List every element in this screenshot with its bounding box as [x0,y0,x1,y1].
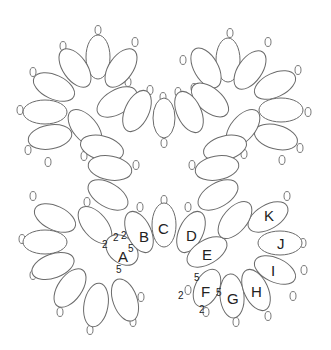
ring-label: I [271,262,275,279]
stitch-count: 5 [194,272,200,283]
ring-label: H [251,283,262,300]
stitch-count: 2 [113,232,119,243]
picot-icon [137,203,143,212]
picot-icon [185,203,191,212]
picot-icon [227,29,233,38]
picot-icon [265,312,271,321]
picot-icon [45,158,51,167]
picot-icon [233,318,239,327]
stitch-count: 5 [216,287,222,298]
picot-icon [279,156,285,165]
ring [80,281,111,328]
picot-icon [17,106,23,115]
stitch-count: 2 [121,230,127,241]
picot-icon [84,198,90,207]
stitch-count: 5 [116,264,122,275]
picot-icon [295,66,301,75]
picot-icon [30,192,36,201]
picot-icon [133,161,139,170]
ring [26,121,73,152]
ring [259,98,303,122]
picot-icon [95,26,101,35]
picot-icon [132,38,138,47]
picot-icon [30,68,36,77]
ring [23,100,67,124]
ring-label: A [118,248,128,265]
picot-icon [180,56,186,65]
picot-icon [25,146,31,155]
ring-label: G [227,290,239,307]
picot-icon [305,108,311,117]
picot-icon [284,192,290,201]
ring [153,98,175,138]
ring-label: B [139,228,149,245]
stitch-count: 5 [128,243,134,254]
picot-icon [57,308,63,317]
ring-label: K [264,207,274,224]
stitch-count: 2 [102,239,108,250]
picot-icon [185,286,191,295]
stitch-count: 2 [178,290,184,301]
picot-icon [301,266,307,275]
tatting-diagram: ABCDEFGHIJK 222555225 [0,0,331,350]
picot-icon [189,161,195,170]
picot-icon [161,139,167,148]
ring-label: D [186,227,197,244]
ring-label: E [202,246,212,263]
picot-icon [297,144,303,153]
picot-icon [290,292,296,301]
ring [23,230,67,254]
picot-icon [265,38,271,47]
ring-label: C [158,220,169,237]
ring-label: F [201,283,210,300]
stitch-count: 2 [199,304,205,315]
ring-label: J [277,235,285,252]
picot-icon [138,293,144,302]
